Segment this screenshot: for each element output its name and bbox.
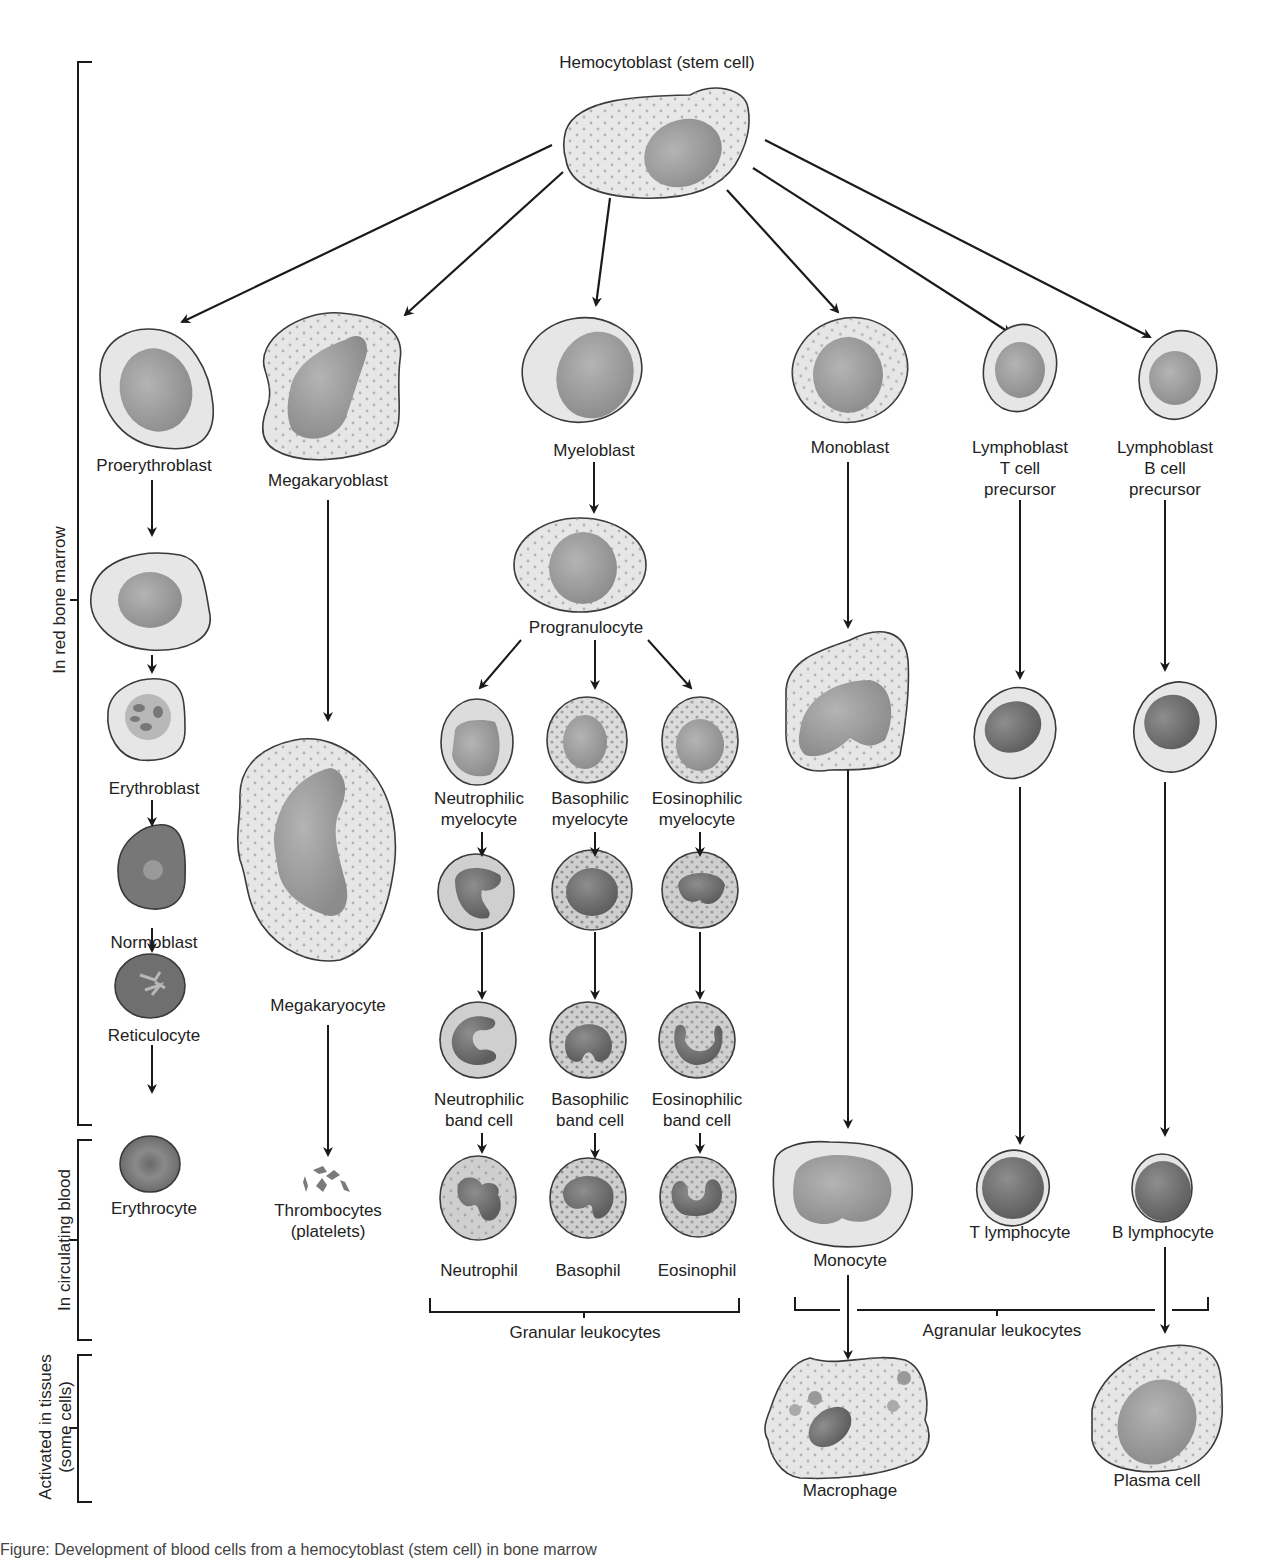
label-eosinophilic-myelocyte: Eosinophilic myelocyte [652, 788, 743, 830]
bracket-red-bone-marrow [70, 62, 92, 1125]
label-b-lymphocyte: B lymphocyte [1112, 1222, 1214, 1243]
cell-monoblast [781, 305, 920, 435]
cell-progranulocyte [514, 518, 646, 612]
cell-basophilic-band [550, 1002, 626, 1078]
label-eosinophil: Eosinophil [658, 1260, 736, 1281]
label-t-lymphocyte: T lymphocyte [970, 1222, 1071, 1243]
label-megakaryocyte: Megakaryocyte [270, 995, 385, 1016]
cell-eosinophil-metamyelocyte [662, 852, 738, 928]
label-granular-leukocytes: Granular leukocytes [509, 1322, 660, 1343]
label-monocyte: Monocyte [813, 1250, 887, 1271]
label-progranulocyte: Progranulocyte [529, 617, 643, 638]
cell-t-lymphocyte-precursor [962, 676, 1069, 790]
cell-megakaryoblast [263, 313, 401, 460]
cell-monocyte [773, 1142, 912, 1247]
label-basophilic-band-cell: Basophilic band cell [551, 1089, 629, 1131]
cell-myeloblast [514, 308, 650, 431]
cell-basophil [550, 1158, 626, 1238]
cell-eosinophilic-myelocyte [662, 697, 738, 783]
label-neutrophil: Neutrophil [440, 1260, 518, 1281]
label-macrophage: Macrophage [803, 1480, 898, 1501]
cell-plasma [1092, 1345, 1222, 1479]
cell-macrophage [765, 1358, 929, 1479]
label-reticulocyte: Reticulocyte [108, 1025, 201, 1046]
cell-thrombocytes [303, 1166, 350, 1192]
label-proerythroblast: Proerythroblast [96, 455, 211, 476]
label-in-circulating-blood: In circulating blood [55, 1140, 75, 1340]
label-megakaryoblast: Megakaryoblast [268, 470, 388, 491]
cell-neutrophil [440, 1156, 516, 1240]
group-brackets [430, 1297, 1208, 1318]
cell-b-lymphocyte [1132, 1154, 1192, 1222]
label-hemocytoblast: Hemocytoblast (stem cell) [559, 52, 755, 73]
cell-eosinophil [660, 1157, 736, 1237]
label-normoblast: Normoblast [111, 932, 198, 953]
bracket-granular-leukocytes [430, 1298, 739, 1318]
label-basophil: Basophil [555, 1260, 620, 1281]
cell-eosinophilic-band [659, 1002, 735, 1078]
cell-erythroblast-early [91, 553, 210, 650]
label-neutrophilic-band-cell: Neutrophilic band cell [434, 1089, 524, 1131]
label-lymphoblast-b: Lymphoblast B cell precursor [1117, 437, 1213, 500]
label-monoblast: Monoblast [811, 437, 889, 458]
cell-erythroblast [108, 679, 185, 760]
label-plasma-cell: Plasma cell [1114, 1470, 1201, 1491]
cell-basophil-metamyelocyte [552, 850, 632, 930]
cell-lymphoblast-b [1127, 320, 1229, 431]
cell-proerythroblast [100, 329, 213, 449]
label-neutrophilic-myelocyte: Neutrophilic myelocyte [434, 788, 524, 830]
label-eosinophilic-band-cell: Eosinophilic band cell [652, 1089, 743, 1131]
cell-lymphoblast-t [974, 316, 1066, 420]
cell-megakaryocyte [238, 739, 396, 961]
label-in-red-bone-marrow: In red bone marrow [50, 500, 70, 700]
label-basophilic-myelocyte: Basophilic myelocyte [551, 788, 629, 830]
label-lymphoblast-t: Lymphoblast T cell precursor [972, 437, 1068, 500]
cell-neutrophil-metamyelocyte [438, 854, 514, 930]
cell-neutrophilic-band [440, 1002, 516, 1078]
bracket-agranular-leukocytes [795, 1297, 1208, 1316]
cell-neutrophilic-myelocyte [441, 699, 513, 785]
label-thrombocytes: Thrombocytes (platelets) [274, 1200, 382, 1242]
cell-erythrocyte [120, 1136, 180, 1192]
label-erythroblast: Erythroblast [109, 778, 200, 799]
label-activated-in-tissues: Activated in tissues (some cells) [36, 1327, 76, 1527]
cell-monocyte-precursor [786, 632, 908, 771]
figure-caption: Figure: Development of blood cells from … [0, 1541, 597, 1559]
cell-hemocytoblast [564, 88, 749, 200]
cell-basophilic-myelocyte [547, 697, 627, 783]
label-erythrocyte: Erythrocyte [111, 1198, 197, 1219]
label-myeloblast: Myeloblast [553, 440, 634, 461]
cell-reticulocyte [115, 954, 185, 1018]
cell-b-lymphocyte-precursor [1119, 668, 1230, 785]
cell-normoblast [118, 825, 185, 909]
label-agranular-leukocytes: Agranular leukocytes [923, 1320, 1082, 1341]
